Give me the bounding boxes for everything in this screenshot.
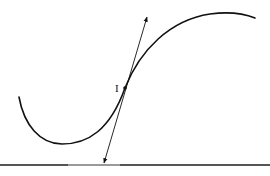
bottom-rule-segment xyxy=(68,164,120,166)
tangent-line xyxy=(104,17,147,163)
inflection-diagram xyxy=(0,0,270,176)
bottom-rule xyxy=(0,164,270,166)
inflection-point-label: I xyxy=(115,83,119,94)
s-curve xyxy=(19,13,255,144)
inflection-point xyxy=(123,86,127,90)
